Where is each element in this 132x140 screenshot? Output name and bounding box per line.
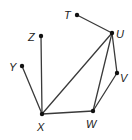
node-label-u: U xyxy=(116,28,124,40)
edges xyxy=(22,15,117,114)
node-w xyxy=(91,109,95,113)
node-label-w: W xyxy=(86,118,98,130)
node-v xyxy=(115,71,119,75)
edge-x-z xyxy=(41,36,42,114)
node-label-t: T xyxy=(64,9,72,21)
edge-t-u xyxy=(77,15,112,33)
node-label-y: Y xyxy=(9,61,17,73)
node-label-x: X xyxy=(36,121,45,133)
node-x xyxy=(40,112,44,116)
node-y xyxy=(20,64,24,68)
edge-w-x xyxy=(42,111,93,114)
node-z xyxy=(39,34,43,38)
edge-x-y xyxy=(22,66,42,114)
node-label-v: V xyxy=(120,72,129,84)
graph-diagram: TUZYVXW xyxy=(0,0,132,140)
node-u xyxy=(110,31,114,35)
node-t xyxy=(75,13,79,17)
node-label-z: Z xyxy=(27,31,36,43)
labels: TUZYVXW xyxy=(9,9,129,133)
edge-v-w xyxy=(93,73,117,111)
